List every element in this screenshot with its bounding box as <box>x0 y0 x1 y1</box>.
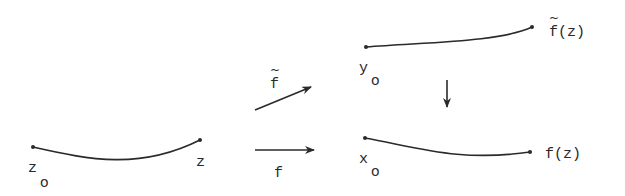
end-point <box>528 150 532 154</box>
lifted-path: y o ~ f(z) <box>359 11 585 88</box>
f-z-label: f(z) <box>545 146 581 163</box>
map-f-label: f <box>274 165 283 182</box>
lifting-diagram: z o z ~ f f y o ~ f(z) x o f(z) <box>0 0 625 196</box>
domain-path: z o z <box>28 138 205 190</box>
start-point <box>363 136 367 140</box>
lift-map-label: f <box>270 76 279 93</box>
f-tilde-mark: ~ <box>549 11 559 25</box>
image-path: x o f(z) <box>359 136 581 179</box>
y0-label: y <box>359 60 368 77</box>
z-label: z <box>196 154 205 171</box>
z0-subscript: o <box>40 174 49 190</box>
lift-map-arrow: ~ f <box>255 63 311 110</box>
end-point <box>198 138 202 142</box>
y0-subscript: o <box>371 72 380 88</box>
lift-map-tilde: ~ <box>270 63 280 77</box>
x0-subscript: o <box>371 163 380 179</box>
start-point <box>364 45 368 49</box>
map-f-arrow: f <box>255 150 314 182</box>
z0-label: z <box>28 160 37 177</box>
f-tilde-z-label: f(z) <box>549 24 585 41</box>
x0-label: x <box>359 151 368 168</box>
end-point <box>530 25 534 29</box>
start-point <box>31 145 35 149</box>
